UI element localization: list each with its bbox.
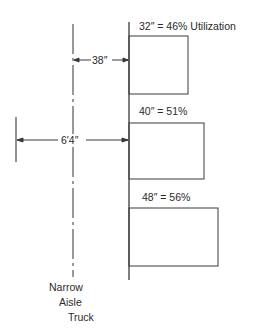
- rack-label-32: 32″ = 46% Utilization: [139, 20, 236, 32]
- dimension-38-label: 38″: [91, 54, 108, 66]
- rack-box-32: [129, 36, 188, 94]
- truck-label-line-2: Aisle: [59, 296, 82, 308]
- diagram-canvas: [0, 0, 261, 335]
- rack-label-48: 48″ = 56%: [142, 191, 190, 203]
- dimension-6-4-label: 6′4″: [60, 134, 79, 146]
- rack-box-48: [129, 208, 218, 266]
- rack-label-40: 40″ = 51%: [139, 105, 187, 117]
- truck-label-line-1: Narrow: [49, 281, 83, 293]
- rack-box-40: [129, 123, 204, 179]
- truck-label-line-3: Truck: [68, 311, 94, 323]
